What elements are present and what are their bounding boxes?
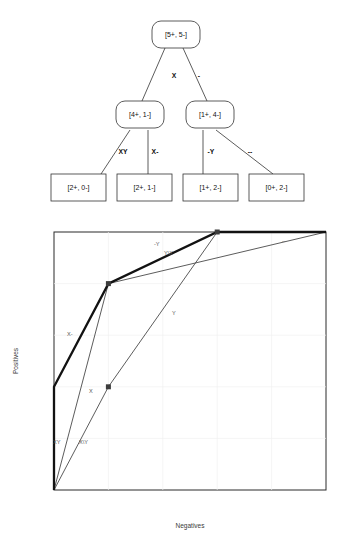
roc-label-y: Y	[172, 310, 176, 316]
roc-label-y-given-x: Y\X	[164, 250, 173, 256]
roc-label-neg-y: -Y	[154, 241, 160, 247]
roc-label-x-minus: X-	[67, 331, 73, 337]
roc-xaxis-title: Negatives	[176, 522, 206, 530]
tree-leaf-2-label: [2+, 1-]	[134, 184, 156, 192]
tree-leaf-3-label: [1+, 2-]	[200, 184, 222, 192]
tree-leaf-1-label: [2+, 0-]	[68, 184, 90, 192]
roc-label-xy: XY	[53, 439, 61, 445]
roc-vertex-3-5	[215, 230, 220, 235]
tree-edge-label-right-right: --	[248, 148, 253, 155]
tree-edge-right-right	[216, 130, 273, 174]
tree-node-root-label: [5+, 5-]	[165, 31, 187, 39]
tree-leaf-1: [2+, 0-]	[51, 174, 106, 201]
tree-node-left-label: [4+, 1-]	[129, 111, 151, 119]
tree-node-right: [1+, 4-]	[186, 101, 234, 128]
tree-edge-label-root-right: -	[198, 72, 200, 79]
tree-leaf-2: [2+, 1-]	[117, 174, 172, 201]
tree-node-left: [4+, 1-]	[116, 101, 164, 128]
tree-edge-label-right-left: -Y	[208, 148, 215, 155]
roc-plot-figure: -Y Y\X Y X- X XY X\Y -- Negatives Positi…	[0, 216, 347, 549]
roc-label-x: X	[89, 388, 93, 394]
tree-edge-label-left-left: XY	[118, 148, 128, 155]
roc-yaxis-title: Positives	[12, 347, 19, 374]
roc-label-neg-neg: --	[282, 238, 286, 244]
tree-node-root: [5+, 5-]	[152, 21, 200, 48]
tree-leaf-4: [0+, 2-]	[249, 174, 304, 201]
tree-edge-label-root-left: X	[172, 72, 177, 79]
tree-leaf-4-label: [0+, 2-]	[266, 184, 288, 192]
tree-edge-root-right	[183, 48, 207, 101]
decision-tree-figure: [5+, 5-] [4+, 1-] [1+, 4-] [2+, 0-] [2+,…	[0, 0, 347, 216]
tree-leaf-3: [1+, 2-]	[183, 174, 238, 201]
roc-label-x-given-y: X\Y	[79, 439, 88, 445]
roc-plot-svg: -Y Y\X Y X- X XY X\Y -- Negatives Positi…	[0, 216, 347, 549]
roc-vertex-1-4	[106, 281, 111, 286]
decision-tree-svg: [5+, 5-] [4+, 1-] [1+, 4-] [2+, 0-] [2+,…	[0, 0, 347, 216]
tree-node-right-label: [1+, 4-]	[199, 111, 221, 119]
tree-edge-label-left-right: X-	[152, 148, 159, 155]
tree-edge-root-left	[142, 48, 165, 101]
roc-vertex-1-2	[106, 384, 111, 389]
